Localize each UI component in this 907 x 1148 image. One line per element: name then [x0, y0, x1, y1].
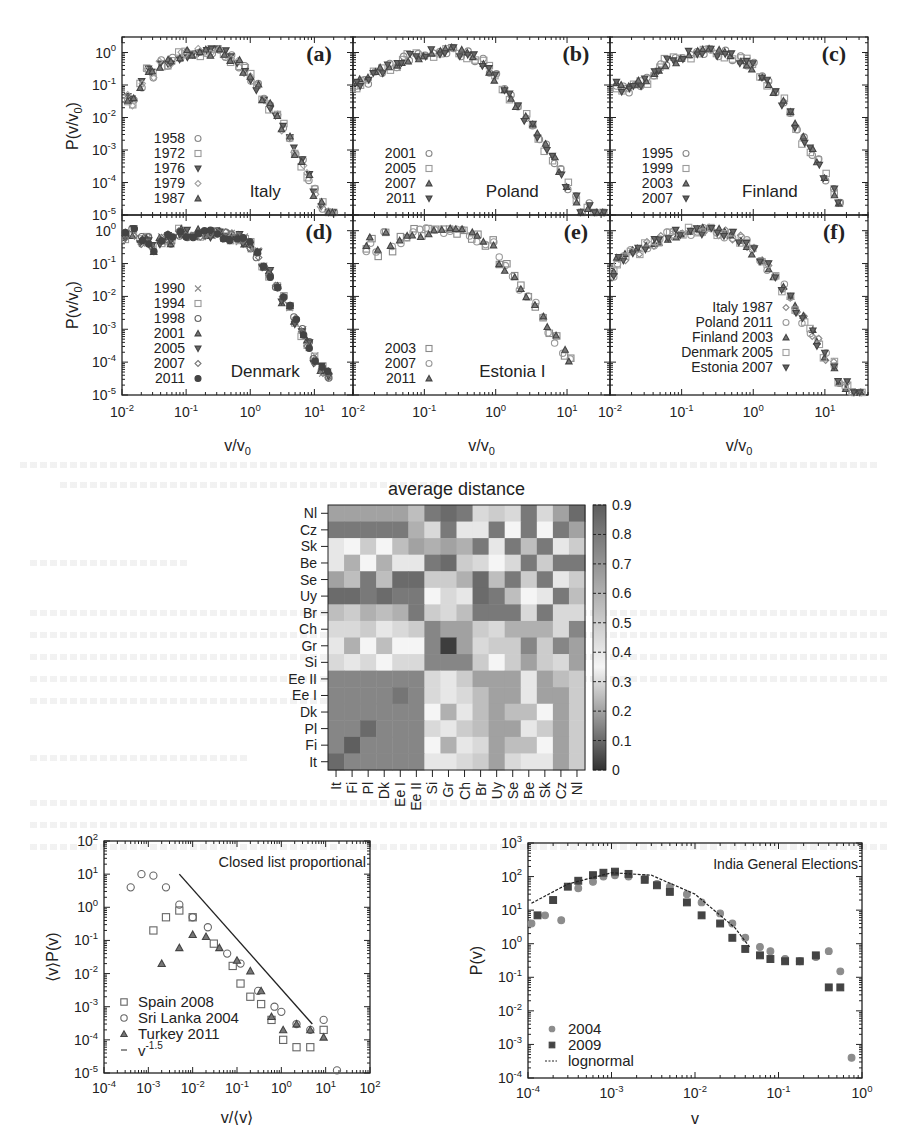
square-marker	[426, 346, 432, 352]
circle-marker	[224, 950, 231, 957]
filled-circle-marker	[275, 285, 281, 291]
square-marker	[504, 261, 510, 267]
tick-label: 10-3	[92, 319, 116, 337]
heatmap-cell	[505, 538, 522, 555]
heatmap: average distanceNlCzSkBeSeUyBrChGrSiEe I…	[288, 479, 631, 811]
heatmap-cell	[473, 555, 490, 572]
heatmap-cell	[473, 588, 490, 605]
heatmap-cell	[440, 704, 457, 721]
heatmap-cell	[408, 571, 425, 588]
triangle-up-marker	[439, 226, 445, 232]
heatmap-cell	[521, 638, 538, 655]
filled-circle-marker	[287, 302, 293, 308]
heatmap-cell	[473, 737, 490, 754]
heatmap-cell	[489, 571, 506, 588]
heatmap-cell	[457, 604, 474, 621]
heatmap-cell	[408, 604, 425, 621]
heatmap-cell	[344, 621, 361, 638]
heatmap-cell	[553, 671, 570, 688]
filled-square-marker	[641, 876, 648, 883]
row-label: Si	[305, 654, 317, 670]
row-label: Cz	[300, 522, 317, 538]
tick-label: 10-1	[766, 1083, 790, 1101]
filled-square-marker	[549, 1042, 555, 1048]
col-label: Br	[473, 782, 489, 796]
filled-circle-marker	[240, 235, 246, 241]
heatmap-cell	[408, 720, 425, 737]
y-axis-label: ⟨v⟩P(v)	[44, 932, 61, 981]
col-label: Gr	[440, 782, 456, 798]
row-label: Ch	[299, 621, 317, 637]
colorbar-label: 0	[612, 762, 620, 778]
panel-e: (e)Estonia I20032007201110-210-1100101v/…	[341, 215, 610, 457]
legend-label: 2009	[568, 1036, 601, 1053]
filled-circle-marker	[234, 236, 240, 242]
filled-circle-marker	[195, 376, 201, 382]
filled-square-marker	[742, 946, 749, 953]
heatmap-cell	[392, 687, 409, 704]
x-axis-label: v/v0	[224, 437, 251, 457]
heatmap-cell	[408, 538, 425, 555]
heatmap-cell	[408, 704, 425, 721]
legend-label: Italy 1987	[712, 299, 773, 315]
heatmap-cell	[521, 538, 538, 555]
row-label: Se	[300, 572, 317, 588]
heatmap-cell	[440, 555, 457, 572]
heatmap-cell	[328, 505, 345, 522]
heatmap-cell	[553, 505, 570, 522]
triangle-down-marker	[195, 346, 201, 351]
tick-label: 100	[852, 1083, 873, 1101]
legend-label: 1998	[154, 310, 185, 326]
heatmap-cell	[537, 737, 554, 754]
filled-circle-marker	[757, 944, 764, 951]
triangle-up-marker	[426, 181, 432, 186]
heatmap-cell	[553, 687, 570, 704]
heatmap-cell	[328, 687, 345, 704]
filled-circle-marker	[122, 229, 128, 235]
panel-a: (a)Italy1958197219761979198710010-110-21…	[64, 37, 353, 223]
heatmap-cell	[505, 737, 522, 754]
tick-label: 103	[501, 833, 522, 851]
heatmap-cell	[328, 737, 345, 754]
heatmap-cell	[440, 720, 457, 737]
heatmap-cell	[457, 505, 474, 522]
heatmap-cell	[489, 621, 506, 638]
tick-label: 101	[814, 402, 835, 420]
heatmap-cell	[376, 704, 393, 721]
circle-marker	[150, 872, 157, 879]
square-marker	[683, 166, 689, 172]
tick-label: 10-4	[74, 1030, 99, 1048]
heatmap-cell	[424, 505, 441, 522]
heatmap-cell	[440, 638, 457, 655]
heatmap-cell	[521, 588, 538, 605]
heatmap-cell	[344, 588, 361, 605]
heatmap-cell	[489, 555, 506, 572]
heatmap-cell	[360, 687, 377, 704]
heatmap-cell	[360, 505, 377, 522]
heatmap-cell	[440, 588, 457, 605]
heatmap-cell	[521, 505, 538, 522]
heatmap-cell	[521, 604, 538, 621]
heatmap-cell	[344, 720, 361, 737]
tick-label: 10-1	[92, 253, 116, 271]
heatmap-cell	[569, 737, 586, 754]
row-label: Sk	[301, 538, 318, 554]
triangle-down-marker	[544, 148, 550, 154]
legend-label: 2007	[385, 175, 416, 191]
heatmap-cell	[408, 522, 425, 539]
panel-tag: (a)	[306, 41, 332, 66]
heatmap-cell	[360, 588, 377, 605]
heatmap-title: average distance	[388, 479, 525, 499]
heatmap-cell	[360, 671, 377, 688]
heatmap-cell	[344, 704, 361, 721]
heatmap-cell	[569, 538, 586, 555]
heatmap-cell	[360, 621, 377, 638]
heatmap-cell	[521, 571, 538, 588]
circle-marker	[162, 884, 169, 891]
heatmap-cell	[392, 654, 409, 671]
heatmap-cell	[408, 753, 425, 770]
triangle-down-marker	[814, 344, 820, 350]
heatmap-cell	[569, 555, 586, 572]
filled-circle-marker	[159, 238, 165, 244]
heatmap-cell	[457, 687, 474, 704]
